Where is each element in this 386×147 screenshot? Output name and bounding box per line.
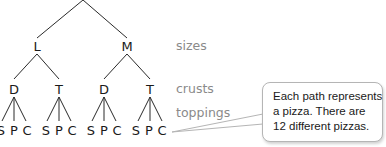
node-size-m: M [121,40,132,53]
node-topping: P [100,124,108,137]
callout-line: a pizza. There are [273,104,376,119]
node-topping: S [42,124,50,137]
level-label-toppings: toppings [176,107,230,120]
node-crust: D [99,83,109,96]
node-topping: C [67,124,76,137]
node-topping: P [10,124,18,137]
node-crust: D [9,83,19,96]
level-label-sizes: sizes [176,40,207,53]
node-topping: S [132,124,140,137]
node-topping: C [112,124,121,137]
tree-diagram: L M D T D T S P C S P C S P C S P C size… [0,0,386,147]
node-crust: T [55,83,63,96]
callout-line: 12 different pizzas. [273,119,376,134]
node-topping: S [87,124,95,137]
node-topping: S [0,124,5,137]
callout-line: Each path represents [273,89,376,104]
node-topping: C [22,124,31,137]
node-topping: P [55,124,63,137]
node-topping: C [157,124,166,137]
callout-box: Each path represents a pizza. There are … [262,82,383,142]
level-label-crusts: crusts [176,83,214,96]
node-size-l: L [33,40,40,53]
node-topping: P [145,124,153,137]
node-crust: T [146,83,154,96]
